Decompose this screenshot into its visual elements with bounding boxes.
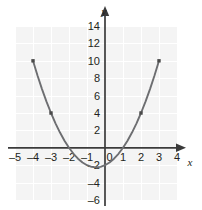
y-tick-label: 10 bbox=[88, 55, 100, 67]
data-point-marker bbox=[139, 111, 142, 114]
x-tick-label: 2 bbox=[138, 151, 144, 163]
y-tick-label: 8 bbox=[94, 72, 100, 84]
x-tick-label: –4 bbox=[27, 151, 39, 163]
y-tick-label: 2 bbox=[94, 124, 100, 136]
y-tick-label: 6 bbox=[94, 90, 100, 102]
y-axis-label: y bbox=[101, 5, 107, 17]
x-tick-label: 1 bbox=[120, 151, 126, 163]
x-tick-label: –3 bbox=[45, 151, 57, 163]
y-tick-label: 14 bbox=[88, 20, 100, 32]
data-point-marker bbox=[157, 59, 160, 62]
x-axis-label: x bbox=[187, 156, 193, 168]
x-tick-label: 3 bbox=[156, 151, 162, 163]
x-tick-label: 4 bbox=[174, 151, 180, 163]
y-tick-label: –4 bbox=[88, 177, 100, 189]
y-tick-label: –6 bbox=[88, 194, 100, 206]
parabola-graph-svg: –5–4–3–2–101234 –6–4–22468101214 x y bbox=[0, 0, 202, 210]
data-point-marker bbox=[49, 111, 52, 114]
data-point-marker bbox=[31, 59, 34, 62]
x-tick-label: –5 bbox=[9, 151, 21, 163]
y-tick-label: 12 bbox=[88, 37, 100, 49]
y-tick-label: 4 bbox=[94, 107, 100, 119]
graph-figure: –5–4–3–2–101234 –6–4–22468101214 x y bbox=[0, 0, 202, 210]
